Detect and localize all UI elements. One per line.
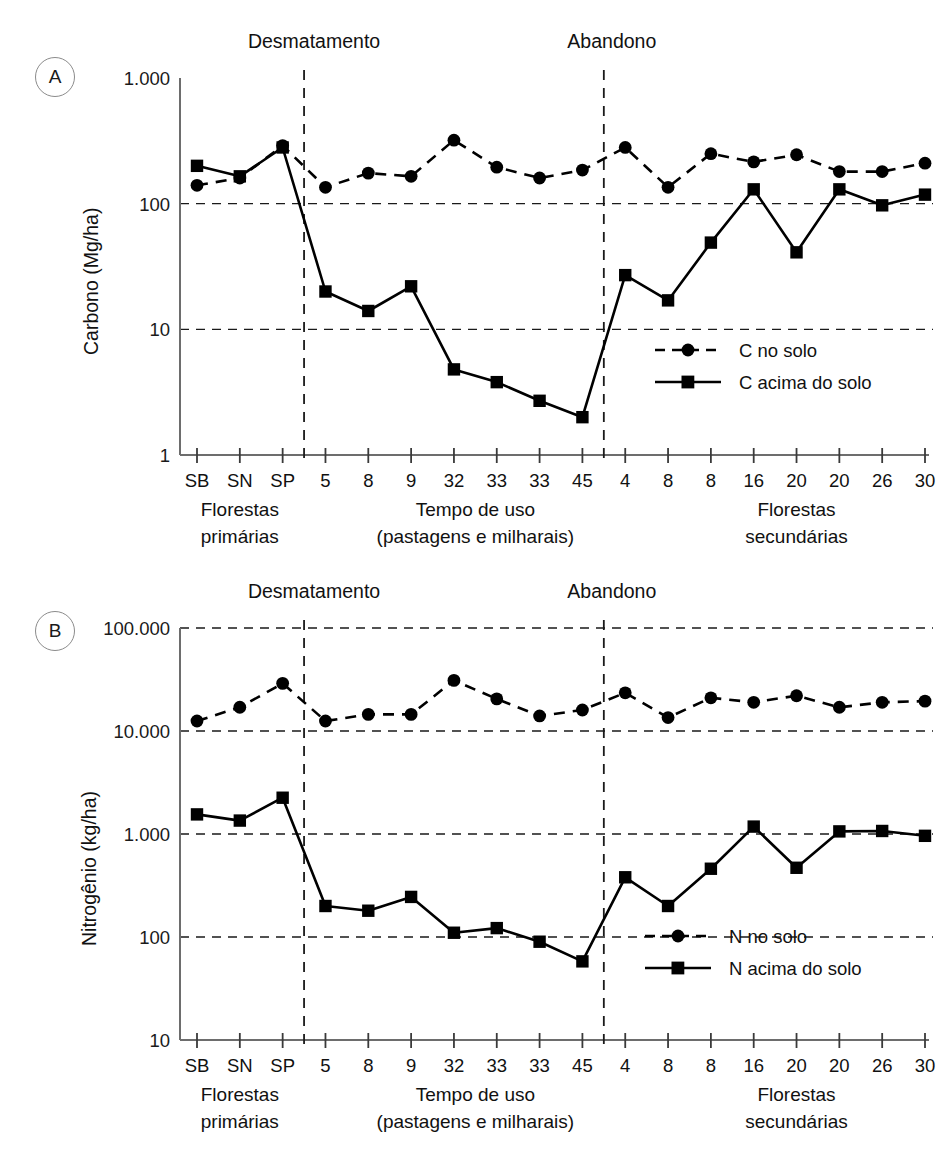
y-tick-label: 1 xyxy=(160,445,170,466)
data-point-circle xyxy=(191,715,204,728)
data-point-square xyxy=(576,955,588,967)
data-point-circle xyxy=(533,710,546,723)
data-point-circle xyxy=(576,704,589,717)
group-label-line2: secundárias xyxy=(745,1111,847,1132)
data-point-square xyxy=(919,188,931,200)
data-point-square xyxy=(533,936,545,948)
x-tick-label: 20 xyxy=(829,470,850,491)
data-point-square xyxy=(362,905,374,917)
series-line-soil xyxy=(197,680,925,721)
x-tick-label: 9 xyxy=(406,470,416,491)
data-point-square xyxy=(405,891,417,903)
data-point-square xyxy=(319,285,331,297)
data-point-circle xyxy=(362,708,375,721)
group-label-line2: (pastagens e milharais) xyxy=(377,1111,574,1132)
legend-label: C no solo xyxy=(739,340,817,361)
data-point-square xyxy=(790,246,802,258)
data-point-square xyxy=(705,236,717,248)
y-tick-label: 10 xyxy=(149,1030,170,1051)
legend-key-circle-icon xyxy=(682,344,695,357)
group-label-line1: Tempo de uso xyxy=(416,499,535,520)
data-point-square xyxy=(576,411,588,423)
x-tick-label: 45 xyxy=(572,470,593,491)
data-point-circle xyxy=(276,677,289,690)
data-point-square xyxy=(276,792,288,804)
data-point-circle xyxy=(747,155,760,168)
data-point-square xyxy=(405,280,417,292)
x-tick-label: 8 xyxy=(363,1055,373,1076)
group-label-line2: secundárias xyxy=(745,526,847,547)
x-tick-label: 30 xyxy=(915,470,936,491)
data-point-square xyxy=(276,141,288,153)
data-point-square xyxy=(662,900,674,912)
data-point-square xyxy=(234,170,246,182)
event-label: Desmatamento xyxy=(248,580,380,602)
data-point-square xyxy=(748,183,760,195)
group-label-line1: Tempo de uso xyxy=(416,1084,535,1105)
y-tick-label: 10.000 xyxy=(113,721,170,742)
x-tick-label: 33 xyxy=(529,470,550,491)
x-tick-label: 8 xyxy=(663,470,673,491)
data-point-circle xyxy=(490,161,503,174)
data-point-square xyxy=(790,862,802,874)
y-tick-label: 100.000 xyxy=(103,618,170,639)
data-point-circle xyxy=(790,689,803,702)
x-tick-label: SB xyxy=(185,1055,210,1076)
group-label-line1: Florestas xyxy=(201,499,279,520)
data-point-circle xyxy=(919,157,932,170)
data-point-circle xyxy=(362,167,375,180)
data-point-circle xyxy=(619,141,632,154)
data-point-circle xyxy=(833,165,846,178)
data-point-square xyxy=(362,305,374,317)
data-point-square xyxy=(491,922,503,934)
group-label-line2: primárias xyxy=(201,1111,279,1132)
data-point-circle xyxy=(833,701,846,714)
data-point-circle xyxy=(405,170,418,183)
data-point-circle xyxy=(233,701,246,714)
data-point-circle xyxy=(319,715,332,728)
x-tick-label: 32 xyxy=(444,470,465,491)
x-tick-label: 16 xyxy=(743,1055,764,1076)
data-point-square xyxy=(191,160,203,172)
legend-key-circle-icon xyxy=(672,930,685,943)
data-point-square xyxy=(748,820,760,832)
panel-b-plot: 101001.00010.000100.000DesmatamentoAband… xyxy=(0,576,938,1152)
data-point-square xyxy=(876,199,888,211)
data-point-circle xyxy=(576,164,589,177)
data-point-square xyxy=(876,825,888,837)
data-point-circle xyxy=(790,148,803,161)
x-tick-label: 20 xyxy=(786,1055,807,1076)
x-tick-label: 4 xyxy=(620,470,630,491)
x-tick-label: 32 xyxy=(444,1055,465,1076)
panel-a-plot: 1101001.000DesmatamentoAbandonoSBSNSP589… xyxy=(0,0,938,576)
legend-label: C acima do solo xyxy=(739,372,872,393)
data-point-circle xyxy=(448,674,461,687)
data-point-circle xyxy=(704,691,717,704)
data-point-square xyxy=(619,871,631,883)
x-tick-label: SB xyxy=(185,470,210,491)
x-tick-label: 33 xyxy=(486,470,507,491)
x-tick-label: 5 xyxy=(320,1055,330,1076)
group-label-line2: (pastagens e milharais) xyxy=(377,526,574,547)
data-point-circle xyxy=(919,695,932,708)
group-label-line1: Florestas xyxy=(201,1084,279,1105)
data-point-circle xyxy=(876,165,889,178)
event-label: Desmatamento xyxy=(248,30,380,52)
panel-b: B Nitrogênio (kg/ha) 101001.00010.000100… xyxy=(0,576,938,1152)
legend-label: N no solo xyxy=(729,926,807,947)
data-point-square xyxy=(448,363,460,375)
y-tick-label: 100 xyxy=(139,927,170,948)
x-tick-label: 33 xyxy=(486,1055,507,1076)
data-point-circle xyxy=(619,686,632,699)
data-point-square xyxy=(833,183,845,195)
x-tick-label: 9 xyxy=(406,1055,416,1076)
y-tick-label: 1.000 xyxy=(124,68,170,89)
x-tick-label: 45 xyxy=(572,1055,593,1076)
x-tick-label: SN xyxy=(227,470,253,491)
data-point-circle xyxy=(704,147,717,160)
data-point-circle xyxy=(191,179,204,192)
legend-key-square-icon xyxy=(672,962,685,975)
x-tick-label: 4 xyxy=(620,1055,630,1076)
y-tick-label: 1.000 xyxy=(124,824,170,845)
data-point-square xyxy=(833,825,845,837)
